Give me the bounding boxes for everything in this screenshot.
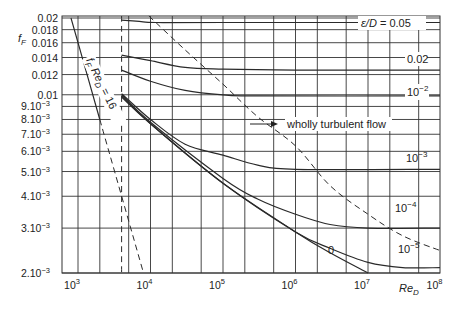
svg-text:wholly turbulent flow: wholly turbulent flow	[286, 118, 386, 130]
series-line	[122, 94, 440, 170]
series-line	[149, 16, 440, 251]
x-tick-label: 104	[137, 277, 153, 291]
x-tick-label: 107	[354, 277, 370, 291]
y-tick-label: 2.10−3	[21, 266, 50, 279]
svg-text:ε/D = 0.05: ε/D = 0.05	[361, 17, 411, 29]
y-tick-label: 3.10−3	[21, 221, 50, 234]
series-line	[122, 70, 440, 96]
y-axis-ticks: 0.020.0180.0160.0140.0120.019.10−38.10−3…	[21, 12, 58, 279]
moody-chart: 0.020.0180.0160.0140.0120.019.10−38.10−3…	[0, 0, 463, 311]
roughness-labels: ε/D = 0.05 0.02 10−2 10−3 10−4 10−5 0	[328, 16, 429, 256]
y-tick-label: 0.02	[38, 12, 59, 24]
grid	[62, 16, 440, 273]
y-axis-label: fF	[18, 32, 27, 47]
x-axis-ticks: 103104105106107108	[64, 277, 442, 291]
y-tick-label: 0.014	[32, 52, 58, 64]
svg-text:10−4: 10−4	[395, 200, 417, 214]
svg-text:10−3: 10−3	[406, 150, 428, 164]
svg-text:10−5: 10−5	[398, 241, 420, 255]
y-tick-label: 0.012	[32, 69, 58, 81]
x-tick-label: 105	[209, 277, 225, 291]
y-tick-label: 0.016	[32, 37, 58, 49]
x-tick-label: 108	[427, 277, 443, 291]
x-axis-label: ReD	[399, 282, 419, 297]
plot-frame	[62, 16, 440, 273]
series-line	[122, 96, 440, 268]
y-tick-label: 5.10−3	[21, 165, 50, 178]
y-tick-label: 0.018	[32, 24, 58, 36]
y-tick-label: 4.10−3	[21, 189, 50, 202]
svg-text:0: 0	[328, 244, 334, 256]
svg-text:0.02: 0.02	[407, 53, 428, 65]
y-tick-label: 9.10−3	[21, 99, 50, 112]
series-group	[71, 16, 440, 273]
x-tick-label: 103	[64, 277, 80, 291]
svg-text:fF ReD = 16: fF ReD = 16	[82, 56, 120, 113]
laminar-line-label: fF ReD = 16	[81, 54, 128, 129]
y-tick-label: 7.10−3	[21, 127, 50, 140]
x-tick-label: 106	[282, 277, 298, 291]
series-line	[122, 95, 440, 229]
y-tick-label: 6.10−3	[21, 144, 50, 157]
y-tick-label: 8.10−3	[21, 112, 50, 125]
